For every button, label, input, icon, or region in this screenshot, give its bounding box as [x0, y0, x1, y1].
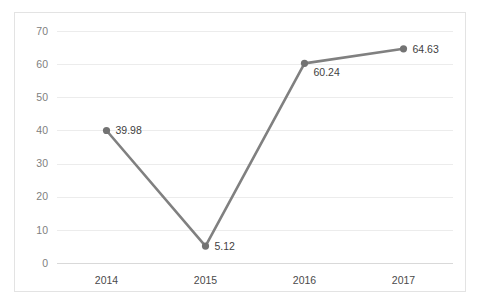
data-point-markers: [103, 45, 407, 249]
y-axis-tick-labels: 010203040506070: [36, 25, 48, 269]
data-value-labels: 39.985.1260.2464.63: [116, 43, 439, 252]
x-axis-category-label: 2014: [95, 274, 119, 286]
data-value-label: 64.63: [413, 43, 439, 55]
y-axis-tick-label: 10: [36, 224, 48, 236]
line-chart-plot: 010203040506070 2014201520162017 39.985.…: [15, 13, 465, 291]
data-point-marker: [400, 45, 407, 52]
x-axis-category-label: 2015: [194, 274, 218, 286]
chart-container: 010203040506070 2014201520162017 39.985.…: [14, 12, 466, 292]
data-point-marker: [301, 60, 308, 67]
data-point-marker: [202, 242, 209, 249]
data-value-label: 39.98: [116, 124, 142, 136]
y-axis-tick-label: 60: [36, 58, 48, 70]
y-axis-tick-label: 40: [36, 124, 48, 136]
gridlines: [57, 32, 453, 264]
y-axis-tick-label: 30: [36, 157, 48, 169]
data-value-label: 60.24: [314, 66, 340, 78]
y-axis-tick-label: 0: [42, 257, 48, 269]
y-axis-tick-label: 50: [36, 91, 48, 103]
data-point-marker: [103, 127, 110, 134]
y-axis-tick-label: 20: [36, 190, 48, 202]
x-axis-category-label: 2017: [392, 274, 416, 286]
y-axis-tick-label: 70: [36, 25, 48, 37]
series-polyline: [107, 49, 404, 246]
x-axis-category-labels: 2014201520162017: [95, 274, 416, 286]
data-value-label: 5.12: [215, 240, 236, 252]
data-series-line: [107, 49, 404, 246]
x-axis-category-label: 2016: [293, 274, 317, 286]
